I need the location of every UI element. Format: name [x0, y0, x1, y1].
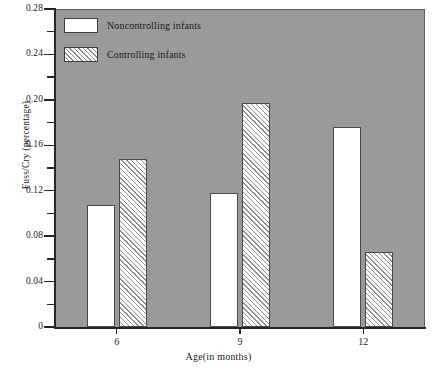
- y-tick-major: [44, 8, 55, 10]
- bar-hatch-9mo: [242, 103, 270, 327]
- bar-hatch-6mo: [119, 159, 147, 327]
- y-tick-major: [44, 281, 55, 283]
- y-tick-major: [44, 145, 55, 147]
- x-tick: [116, 328, 118, 334]
- legend-label-noncontrolling: Noncontrolling infants: [107, 20, 201, 31]
- y-tick-minor: [47, 76, 55, 78]
- x-tick-label: 6: [87, 336, 147, 347]
- bar-solid-12mo: [333, 127, 361, 327]
- chart-figure: 00.040.080.120.160.200.240.28 Fuss/Cry (…: [0, 0, 437, 368]
- x-tick-label: 9: [210, 336, 270, 347]
- y-tick-major: [44, 190, 55, 192]
- y-tick-minor: [47, 258, 55, 260]
- x-tick-label: 12: [333, 336, 393, 347]
- y-tick-minor: [47, 31, 55, 33]
- y-tick-minor: [47, 167, 55, 169]
- y-tick-minor: [47, 304, 55, 306]
- legend-swatch-controlling: [64, 47, 98, 62]
- legend-item: Controlling infants: [64, 46, 201, 63]
- y-axis-title: Fuss/Cry (percentage): [21, 65, 31, 225]
- y-tick-label: 0.28: [3, 4, 43, 14]
- y-tick-label: 0.24: [3, 49, 43, 59]
- y-tick-major: [44, 54, 55, 56]
- y-tick-major: [44, 235, 55, 237]
- x-tick: [363, 328, 365, 334]
- y-tick-minor: [47, 213, 55, 215]
- y-tick-major: [44, 99, 55, 101]
- y-tick-label: 0.08: [3, 231, 43, 241]
- y-tick-minor: [47, 122, 55, 124]
- bar-solid-9mo: [210, 193, 238, 327]
- legend-label-controlling: Controlling infants: [107, 49, 186, 60]
- y-tick-label: 0.04: [3, 277, 43, 287]
- y-tick-label: 0: [3, 322, 43, 332]
- bar-solid-6mo: [87, 205, 115, 327]
- y-tick-major: [44, 326, 55, 328]
- caption-remnant: [8, 358, 188, 368]
- legend-item: Noncontrolling infants: [64, 17, 201, 34]
- legend-swatch-noncontrolling: [64, 18, 98, 33]
- chart-legend: Noncontrolling infants Controlling infan…: [64, 17, 201, 75]
- x-tick: [239, 328, 241, 334]
- bar-hatch-12mo: [365, 252, 393, 327]
